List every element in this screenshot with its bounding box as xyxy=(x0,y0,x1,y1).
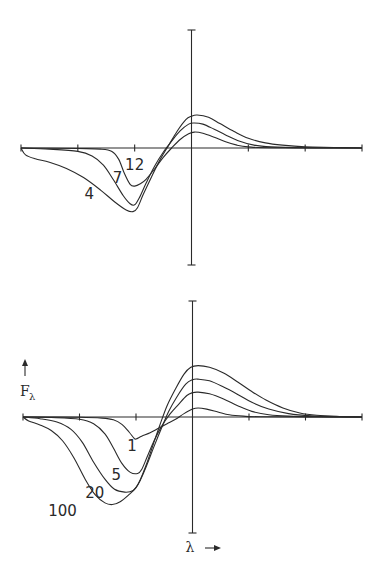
x-axis-label: λ xyxy=(186,539,195,555)
curve-label-5: 5 xyxy=(111,466,121,484)
chart-bottom-panel: 1520100Fλλ xyxy=(0,0,380,582)
curve-label-1: 1 xyxy=(127,437,137,455)
y-axis-label-subscript: λ xyxy=(29,391,36,402)
x-label-arrowhead-icon xyxy=(214,545,221,551)
y-label-arrowhead-icon xyxy=(22,359,28,366)
curve-label-20: 20 xyxy=(85,484,104,502)
curve-label-100: 100 xyxy=(48,502,77,520)
